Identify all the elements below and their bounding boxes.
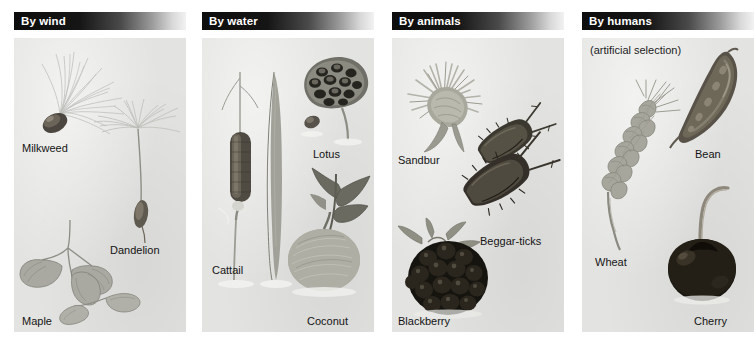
panel-header-label: By water [209,15,258,27]
caption-cherry: Cherry [694,315,727,327]
caption-beggar-ticks: Beggar-ticks [480,235,541,247]
caption-wheat: Wheat [595,256,627,268]
panel-by-wind: By wind [14,12,186,332]
caption-milkweed: Milkweed [22,142,68,154]
panel-header-label: By animals [399,15,461,27]
panel-body-by-animals: Sandbur [392,38,564,332]
caption-maple: Maple [22,315,52,327]
caption-blackberry: Blackberry [398,315,450,327]
coconut-illustration [280,168,374,308]
caption-dandelion: Dandelion [110,244,160,256]
beggar-ticks-illustration [456,116,564,224]
panel-header-label: By wind [21,15,66,27]
panel-body-by-water: Cattail [202,38,374,332]
panel-header-by-wind: By wind [14,12,186,30]
panel-by-humans: By humans (artificial selection) [582,12,754,332]
lotus-illustration [290,52,374,152]
panel-header-by-animals: By animals [392,12,564,30]
panel-body-by-humans: (artificial selection) [582,38,754,332]
caption-cattail: Cattail [212,264,243,276]
panel-header-by-humans: By humans [582,12,754,30]
bean-illustration [666,48,752,156]
caption-bean: Bean [695,148,721,160]
caption-lotus: Lotus [313,148,340,160]
cherry-illustration [658,184,752,310]
panel-header-label: By humans [589,15,652,27]
panel-by-water: By water [202,12,374,332]
panel-body-by-wind: Milkweed [14,38,186,332]
caption-coconut: Coconut [307,315,348,327]
maple-illustration [18,214,148,324]
caption-sandbur: Sandbur [398,154,440,166]
panel-header-by-water: By water [202,12,374,30]
panel-subtitle-artificial-selection: (artificial selection) [590,44,681,56]
panel-by-animals: By animals [392,12,564,332]
